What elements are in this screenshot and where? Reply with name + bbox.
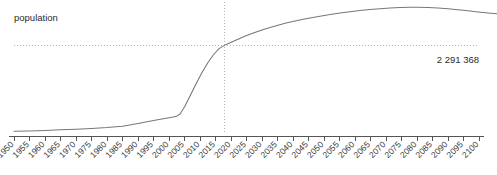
- population-line-series: [14, 7, 497, 131]
- x-axis-tick-label: 2100: [460, 139, 481, 160]
- population-chart: population 2 291 368 1950195519601965197…: [0, 0, 497, 175]
- highlight-value-label: 2 291 368: [437, 54, 479, 65]
- series-label: population: [14, 12, 58, 23]
- chart-canvas: population 2 291 368 1950195519601965197…: [0, 0, 497, 175]
- x-axis-tick-labels: 1950195519601965197019751980198519901995…: [0, 139, 481, 160]
